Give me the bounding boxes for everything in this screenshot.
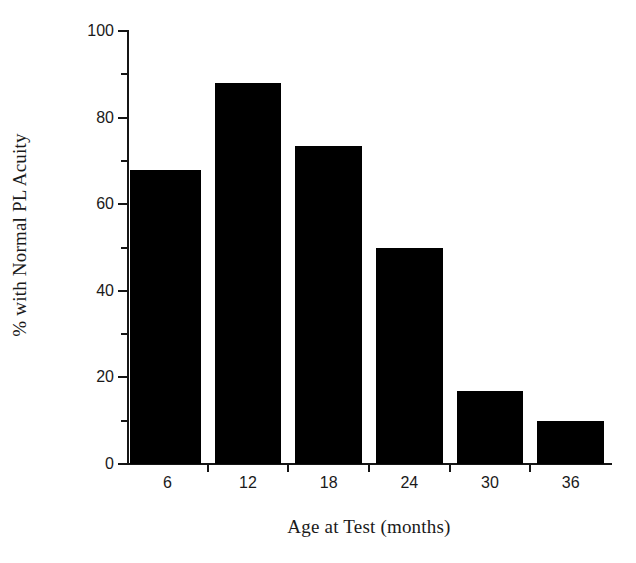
x-tick-5 — [529, 464, 531, 472]
y-tick-label-80: 80 — [78, 109, 114, 127]
plot-area — [127, 31, 611, 464]
y-tick-major-80 — [118, 117, 127, 119]
y-axis-tick-labels: 020406080100 — [42, 0, 114, 563]
y-tick-major-100 — [118, 30, 127, 32]
y-axis-title-text: % with Normal PL Acuity — [9, 133, 31, 336]
y-tick-label-40: 40 — [78, 282, 114, 300]
x-tick-label-30: 30 — [460, 474, 520, 492]
bar-24-months — [376, 248, 443, 465]
x-tick-label-12: 12 — [218, 474, 278, 492]
x-tick-2 — [287, 464, 289, 472]
y-tick-label-60: 60 — [78, 195, 114, 213]
x-tick-label-24: 24 — [379, 474, 439, 492]
bar-18-months — [295, 146, 362, 464]
bar-30-months — [457, 391, 524, 464]
x-tick-4 — [449, 464, 451, 472]
y-tick-label-100: 100 — [78, 22, 114, 40]
y-tick-major-60 — [118, 203, 127, 205]
y-tick-label-20: 20 — [78, 368, 114, 386]
y-axis-title: % with Normal PL Acuity — [0, 0, 40, 470]
y-tick-major-0 — [118, 463, 127, 465]
y-tick-label-0: 0 — [78, 455, 114, 473]
x-tick-label-18: 18 — [299, 474, 359, 492]
bar-36-months — [537, 421, 604, 464]
bar-6-months — [130, 170, 201, 464]
y-tick-major-20 — [118, 376, 127, 378]
y-tick-major-40 — [118, 290, 127, 292]
x-tick-1 — [207, 464, 209, 472]
x-axis-title: Age at Test (months) — [126, 516, 612, 538]
x-tick-label-6: 6 — [137, 474, 197, 492]
bar-12-months — [215, 83, 282, 464]
bar-chart-figure: % with Normal PL Acuity 020406080100 612… — [0, 0, 636, 563]
x-tick-label-36: 36 — [541, 474, 601, 492]
x-tick-3 — [368, 464, 370, 472]
